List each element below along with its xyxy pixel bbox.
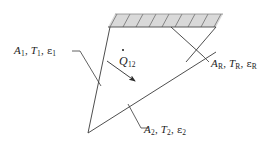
label-heat-rate-symbol-wrap: Q [119,54,128,69]
overdot-icon [122,49,124,51]
label-surface-2-emissivity-sub: 2 [182,128,186,137]
label-reradiating-surface: AR, TR, εR [211,57,257,69]
leader-line-surface-1 [72,51,101,86]
surface-1-line [88,27,110,133]
label-reradiating-area-sub: R [218,62,223,71]
label-surface-1-temp-sub: 1 [37,49,41,58]
label-surface-1: A1, T1, ε1 [14,44,56,56]
label-heat-rate: Q12 [119,54,136,69]
radiation-diagram-figure: A1, T1, ε1 AR, TR, εR A2, T2, ε2 Q12 [0,0,272,153]
label-heat-rate-sub: 12 [128,60,136,69]
label-heat-rate-symbol: Q [119,54,128,68]
label-surface-1-area-sub: 1 [21,49,25,58]
label-surface-2-temp-sub: 2 [167,128,171,137]
label-reradiating-emissivity-sub: R [252,62,257,71]
label-reradiating-area: A [211,57,218,69]
label-surface-1-area: A [14,44,21,56]
reradiating-wall [108,14,223,27]
label-surface-2-area: A [144,123,151,135]
surface-2-line [88,52,216,133]
reradiating-surface-crossing-line [171,27,203,56]
label-surface-2: A2, T2, ε2 [144,123,186,135]
label-surface-1-emissivity-sub: 1 [52,49,56,58]
label-reradiating-temp-sub: R [235,62,240,71]
diagram-canvas [0,0,272,153]
label-surface-2-area-sub: 2 [151,128,155,137]
